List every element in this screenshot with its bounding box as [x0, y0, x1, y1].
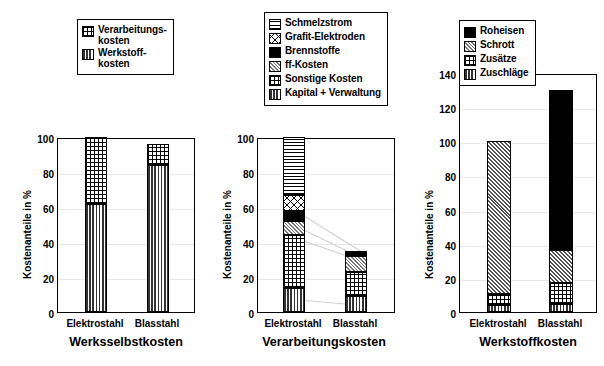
- gridline: [258, 244, 394, 245]
- bar-blasstahl: [345, 251, 367, 312]
- y-tick-label: 0: [248, 309, 254, 320]
- panel-verarbeitungskosten: Schmelzstrom Grafit-Elektroden Brennstof…: [202, 0, 404, 366]
- legend-item-schmelzstrom: Schmelzstrom: [269, 17, 381, 30]
- y-axis-title: Kostenanteile in %: [424, 190, 435, 279]
- swatch-solid-black-icon: [464, 27, 476, 38]
- swatch-cross-hatch-icon: [269, 33, 281, 44]
- y-tick-label: 0: [450, 309, 456, 320]
- legend-item-zuschlaege: Zuschläge: [464, 67, 529, 80]
- plot-area-werksselbstkosten: 100 80 60 40 20 0: [57, 138, 195, 313]
- swatch-horizontal-lines-icon: [269, 19, 281, 30]
- swatch-vertical-lines-icon: [464, 69, 476, 80]
- plot-area-werkstoffkosten: 140 120 100 80 60 40 20 0: [459, 74, 597, 313]
- legend-label: Schmelzstrom: [285, 17, 352, 28]
- y-axis-title: Kostenanteile in %: [22, 190, 33, 279]
- legend-label: Zusätze: [480, 53, 517, 64]
- x-tick-label-blasstahl: Blasstahl: [333, 318, 377, 329]
- swatch-vertical-lines-icon: [82, 49, 94, 60]
- gridline: [58, 209, 194, 210]
- segment-werkstoffkosten: [147, 165, 169, 312]
- segment-kapital-verwaltung: [283, 288, 305, 313]
- segment-zusaetze: [549, 283, 573, 304]
- segment-brennstoffe: [345, 251, 367, 256]
- swatch-grid-icon: [269, 75, 281, 86]
- legend-item-sonstige-kosten: Sonstige Kosten: [269, 73, 381, 86]
- segment-ff-kosten: [283, 221, 305, 235]
- legend-label: Verarbeitungs- kosten: [98, 24, 167, 46]
- segment-zuschlaege: [487, 305, 511, 312]
- legend-item-schrott: Schrott: [464, 39, 529, 52]
- y-tick-label: 60: [43, 204, 54, 215]
- x-axis-title: Werkstoffkosten: [479, 335, 577, 349]
- x-tick-label-elektrostahl: Elektrostahl: [264, 318, 321, 329]
- x-tick-label-elektrostahl: Elektrostahl: [469, 318, 526, 329]
- legend-item-verarbeitungskosten: Verarbeitungs- kosten: [82, 24, 167, 46]
- gridline: [460, 177, 596, 178]
- gridline: [258, 174, 394, 175]
- y-tick-label: 80: [445, 172, 456, 183]
- gridline: [460, 109, 596, 110]
- legend-item-grafit-elektroden: Grafit-Elektroden: [269, 31, 381, 44]
- x-axis-title: Verarbeitungskosten: [262, 335, 386, 349]
- y-tick-label: 60: [243, 204, 254, 215]
- y-axis-title: Kostenanteile in %: [222, 190, 233, 279]
- segment-schrott: [487, 141, 511, 294]
- legend-label: Sonstige Kosten: [285, 73, 362, 84]
- legend-label: Brennstoffe: [285, 45, 340, 56]
- legend-item-roheisen: Roheisen: [464, 25, 529, 38]
- legend-label: Zuschläge: [480, 67, 529, 78]
- legend-label: Grafit-Elektroden: [285, 31, 365, 42]
- gridline: [258, 209, 394, 210]
- bar-blasstahl: [147, 144, 169, 312]
- swatch-grid-icon: [82, 26, 94, 37]
- swatch-grid-icon: [464, 55, 476, 66]
- swatch-vertical-lines-icon: [269, 89, 281, 100]
- gridline: [58, 279, 194, 280]
- legend-label: ff-Kosten: [285, 59, 328, 70]
- bar-elektrostahl: [283, 137, 305, 312]
- legend-werksselbstkosten: Verarbeitungs- kosten Werkstoff- kosten: [77, 19, 174, 75]
- panel-werksselbstkosten: Verarbeitungs- kosten Werkstoff- kosten …: [0, 0, 202, 366]
- y-tick-label: 120: [439, 104, 456, 115]
- segment-sonstige-kosten: [345, 272, 367, 297]
- x-tick-label-blasstahl: Blasstahl: [135, 318, 179, 329]
- y-tick-label: 140: [439, 70, 456, 81]
- bar-elektrostahl: [85, 137, 107, 312]
- x-tick-label-elektrostahl: Elektrostahl: [66, 318, 123, 329]
- gridline: [460, 246, 596, 247]
- legend-item-werkstoffkosten: Werkstoff- kosten: [82, 47, 167, 69]
- segment-schmelzstrom: [283, 137, 305, 195]
- segment-sonstige-kosten: [283, 235, 305, 288]
- y-tick-label: 60: [445, 206, 456, 217]
- y-tick-label: 100: [439, 138, 456, 149]
- y-tick-label: 20: [43, 274, 54, 285]
- y-tick-label: 80: [43, 169, 54, 180]
- bar-blasstahl: [549, 90, 573, 312]
- legend-item-zusaetze: Zusätze: [464, 53, 529, 66]
- gridline: [460, 212, 596, 213]
- legend-item-ff-kosten: ff-Kosten: [269, 59, 381, 72]
- legend-item-kapital-verwaltung: Kapital + Verwaltung: [269, 87, 381, 100]
- segment-brennstoffe: [283, 211, 305, 222]
- y-tick-label: 20: [445, 274, 456, 285]
- segment-schrott: [549, 250, 573, 283]
- segment-verarbeitungskosten: [147, 144, 169, 165]
- y-tick-label: 40: [445, 240, 456, 251]
- segment-ff-kosten: [345, 256, 367, 272]
- swatch-solid-black-icon: [269, 47, 281, 58]
- gridline: [460, 280, 596, 281]
- legend-label: Kapital + Verwaltung: [285, 87, 381, 98]
- segment-roheisen: [549, 90, 573, 250]
- gridline: [58, 244, 194, 245]
- panel-werkstoffkosten: Roheisen Schrott Zusätze Zuschläge 140 1…: [404, 0, 604, 366]
- y-tick-label: 100: [37, 134, 54, 145]
- legend-label: Roheisen: [480, 25, 524, 36]
- x-tick-label-blasstahl: Blasstahl: [538, 318, 582, 329]
- x-axis-title: Werksselbstkosten: [69, 335, 183, 349]
- bar-elektrostahl: [487, 141, 511, 312]
- plot-area-verarbeitungskosten: 100 80 60 40 20 0: [257, 138, 395, 313]
- y-tick-label: 80: [243, 169, 254, 180]
- gridline: [258, 279, 394, 280]
- y-tick-label: 100: [237, 134, 254, 145]
- segment-zusaetze: [487, 294, 511, 305]
